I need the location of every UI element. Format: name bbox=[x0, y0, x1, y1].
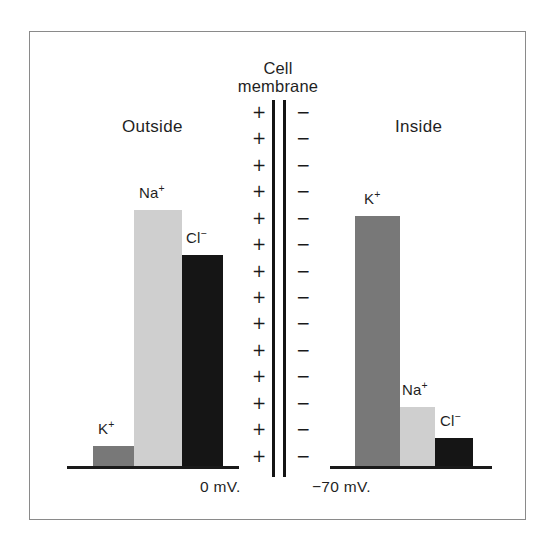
membrane-positive-charge: + bbox=[248, 342, 270, 359]
outside-label: Outside bbox=[122, 117, 183, 137]
membrane-positive-charge: + bbox=[248, 368, 270, 385]
figure-root: Cell membrane Outside Inside +++++++++++… bbox=[0, 0, 556, 555]
bar-outside-potassium bbox=[93, 446, 134, 466]
membrane-negative-charge: − bbox=[292, 263, 314, 280]
ion-charge-outside-potassium: + bbox=[108, 418, 114, 430]
bar-outside-chloride bbox=[182, 255, 223, 466]
membrane-positive-charge: + bbox=[248, 236, 270, 253]
membrane-line-outer bbox=[272, 100, 275, 477]
membrane-positive-charge: + bbox=[248, 157, 270, 174]
cell-membrane-title-line1: Cell bbox=[236, 59, 320, 77]
cell-membrane-title-line2: membrane bbox=[236, 77, 320, 95]
bar-inside-potassium bbox=[355, 216, 400, 466]
bar-label-inside-sodium: Na+ bbox=[402, 381, 428, 398]
ion-symbol-outside-potassium: K bbox=[98, 420, 108, 437]
membrane-negative-charge: − bbox=[292, 183, 314, 200]
membrane-negative-charge: − bbox=[292, 342, 314, 359]
ion-symbol-inside-sodium: Na bbox=[402, 381, 422, 398]
bar-label-outside-potassium: K+ bbox=[98, 420, 115, 437]
bar-label-outside-sodium: Na+ bbox=[139, 184, 165, 201]
ion-charge-inside-chloride: − bbox=[455, 410, 461, 422]
membrane-negative-charge: − bbox=[292, 104, 314, 121]
membrane-negative-charge: − bbox=[292, 315, 314, 332]
bar-label-outside-chloride: Cl− bbox=[186, 229, 207, 246]
ion-charge-inside-potassium: + bbox=[374, 188, 380, 200]
inside-label: Inside bbox=[395, 117, 442, 137]
membrane-positive-charge: + bbox=[248, 183, 270, 200]
membrane-positive-charge: + bbox=[248, 395, 270, 412]
bar-inside-chloride bbox=[435, 438, 473, 466]
membrane-negative-charge: − bbox=[292, 130, 314, 147]
baseline-inside bbox=[330, 466, 492, 469]
membrane-negative-charge: − bbox=[292, 157, 314, 174]
bar-label-inside-potassium: K+ bbox=[364, 190, 381, 207]
membrane-positive-charge: + bbox=[248, 263, 270, 280]
membrane-negative-charge: − bbox=[292, 289, 314, 306]
membrane-positive-charge-column: ++++++++++++++ bbox=[248, 104, 270, 474]
membrane-positive-charge: + bbox=[248, 210, 270, 227]
ion-symbol-outside-sodium: Na bbox=[139, 184, 159, 201]
membrane-negative-charge: − bbox=[292, 448, 314, 465]
membrane-negative-charge: − bbox=[292, 236, 314, 253]
ion-charge-outside-chloride: − bbox=[201, 227, 207, 239]
cell-membrane-title: Cell membrane bbox=[236, 59, 320, 96]
baseline-outside bbox=[67, 466, 239, 469]
ion-symbol-inside-chloride: Cl bbox=[440, 412, 455, 429]
membrane-positive-charge: + bbox=[248, 289, 270, 306]
membrane-negative-charge-column: −−−−−−−−−−−−−− bbox=[292, 104, 314, 474]
membrane-positive-charge: + bbox=[248, 448, 270, 465]
voltage-label-outside: 0 mV. bbox=[200, 478, 241, 496]
chart-plot-area: Cell membrane Outside Inside +++++++++++… bbox=[0, 0, 556, 555]
bar-label-inside-chloride: Cl− bbox=[440, 412, 461, 429]
ion-charge-inside-sodium: + bbox=[422, 379, 428, 391]
membrane-negative-charge: − bbox=[292, 210, 314, 227]
ion-symbol-inside-potassium: K bbox=[364, 190, 374, 207]
ion-charge-outside-sodium: + bbox=[159, 182, 165, 194]
bar-outside-sodium bbox=[134, 210, 182, 466]
membrane-negative-charge: − bbox=[292, 368, 314, 385]
membrane-negative-charge: − bbox=[292, 421, 314, 438]
membrane-positive-charge: + bbox=[248, 421, 270, 438]
bar-inside-sodium bbox=[400, 407, 435, 466]
membrane-negative-charge: − bbox=[292, 395, 314, 412]
membrane-positive-charge: + bbox=[248, 315, 270, 332]
membrane-positive-charge: + bbox=[248, 104, 270, 121]
membrane-positive-charge: + bbox=[248, 130, 270, 147]
ion-symbol-outside-chloride: Cl bbox=[186, 229, 201, 246]
voltage-label-inside: −70 mV. bbox=[312, 478, 371, 496]
membrane-line-inner bbox=[283, 100, 286, 477]
